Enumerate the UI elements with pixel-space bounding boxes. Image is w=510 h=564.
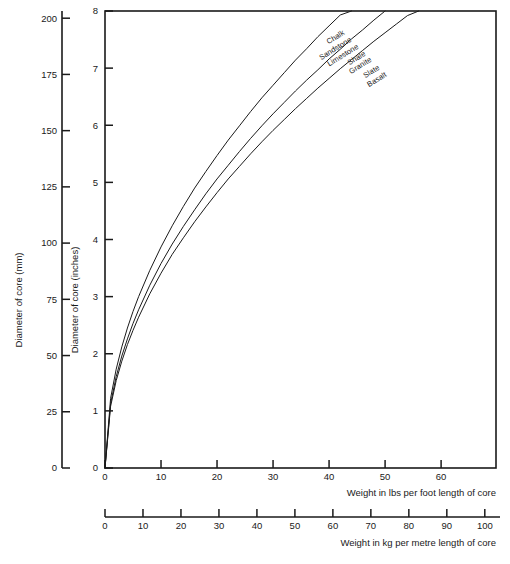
inches-tick-label: 7 [93, 63, 98, 74]
inches-tick-label: 3 [93, 291, 98, 302]
curve-1 [105, 11, 385, 468]
inches-tick-label: 5 [93, 177, 98, 188]
inches-axis: 012345678 Diameter of core (inches) [69, 5, 113, 473]
plot-frame [105, 11, 496, 468]
inches-tick-label: 2 [93, 348, 98, 359]
inches-tick-label: 0 [93, 462, 98, 473]
kg-tick-label: 40 [252, 520, 263, 531]
kg-tick-label: 60 [328, 520, 339, 531]
kg-tick-group: 0102030405060708090100 [102, 509, 492, 531]
inches-tick-label: 6 [93, 120, 98, 131]
inches-axis-title: Diameter of core (inches) [69, 247, 80, 354]
lbs-tick-label: 10 [156, 471, 167, 482]
kg-tick-label: 50 [290, 520, 301, 531]
mm-tick-group: 0255075100125150175200 [41, 13, 70, 474]
mm-tick-label: 150 [41, 125, 57, 136]
inches-tick-label: 8 [93, 5, 98, 16]
chart-svg: 0255075100125150175200 Diameter of core … [0, 0, 510, 564]
lbs-tick-label: 50 [380, 471, 391, 482]
mm-axis-title: Diameter of core (mm) [13, 252, 24, 347]
lbs-axis-title: Weight in lbs per foot length of core [347, 487, 496, 498]
mm-tick-label: 25 [46, 406, 57, 417]
kg-tick-label: 90 [442, 520, 453, 531]
mm-axis: 0255075100125150175200 Diameter of core … [13, 11, 70, 473]
mm-tick-label: 100 [41, 237, 57, 248]
mm-tick-label: 175 [41, 69, 57, 80]
kg-axis: 0102030405060708090100 Weight in kg per … [102, 509, 500, 548]
lbs-tick-label: 20 [212, 471, 223, 482]
figure-container: 0255075100125150175200 Diameter of core … [0, 0, 510, 564]
lbs-tick-label: 60 [436, 471, 447, 482]
kg-tick-label: 20 [176, 520, 187, 531]
mm-tick-label: 125 [41, 181, 57, 192]
inches-tick-label: 1 [93, 405, 98, 416]
curve-0 [105, 11, 351, 468]
kg-tick-label: 70 [366, 520, 377, 531]
kg-tick-label: 0 [102, 520, 107, 531]
kg-tick-label: 80 [404, 520, 415, 531]
lbs-tick-label: 30 [268, 471, 279, 482]
lbs-axis: 0102030405060 Weight in lbs per foot len… [102, 460, 496, 498]
kg-axis-title: Weight in kg per metre length of core [340, 537, 496, 548]
kg-tick-label: 100 [477, 520, 493, 531]
mm-tick-label: 200 [41, 13, 57, 24]
lbs-tick-label: 0 [102, 471, 107, 482]
lbs-tick-label: 40 [324, 471, 335, 482]
mm-tick-label: 50 [46, 350, 57, 361]
kg-tick-label: 30 [214, 520, 225, 531]
inches-tick-label: 4 [93, 234, 98, 245]
mm-tick-label: 75 [46, 294, 57, 305]
kg-tick-label: 10 [138, 520, 149, 531]
lbs-tick-group: 0102030405060 [102, 460, 446, 482]
mm-tick-label: 0 [52, 462, 57, 473]
